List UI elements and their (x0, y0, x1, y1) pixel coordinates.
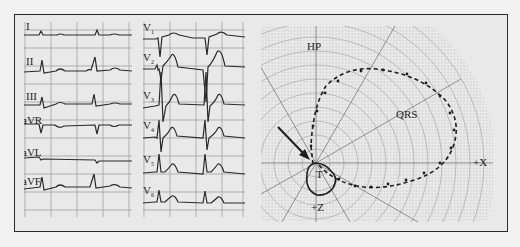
lead-label-I: I (26, 22, 30, 32)
lead-label-V6: V6 (143, 184, 154, 198)
lead-label-V4: V4 (143, 119, 154, 133)
ecg-grid (143, 22, 245, 217)
t-label: T (316, 168, 323, 180)
x-axis-label: +X (473, 156, 487, 168)
lead-label-II: II (26, 55, 34, 67)
limb-leads-panel: I II III aVR aVL aVF (24, 22, 132, 217)
lead-label-V5: V5 (143, 153, 154, 167)
lead-label-V2: V2 (143, 51, 154, 65)
polar-grid (261, 26, 493, 222)
lead-label-V3: V3 (143, 89, 154, 103)
hp-label: HP (307, 40, 321, 52)
chest-lead-traces (143, 32, 245, 203)
chest-lead-labels: V1 V2 V3 V4 V5 V6 (143, 22, 154, 198)
lead-label-aVL: aVL (24, 146, 42, 158)
vcg-horizontal-plane-panel: HP QRS T +X +Z (261, 26, 493, 222)
lead-label-III: III (26, 90, 37, 102)
limb-lead-traces (24, 30, 132, 190)
lead-label-aVR: aVR (24, 114, 43, 126)
z-axis-label: +Z (311, 201, 324, 213)
lead-label-V1: V1 (143, 22, 154, 35)
chest-leads-panel: V1 V2 V3 V4 V5 V6 (143, 22, 245, 217)
qrs-label: QRS (396, 108, 417, 120)
lead-label-aVF: aVF (24, 175, 41, 187)
